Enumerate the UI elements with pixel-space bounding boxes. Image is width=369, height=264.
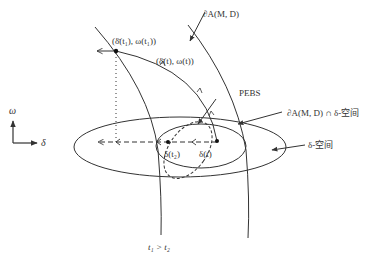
label-delta-t2: δ(t₂) <box>164 149 180 159</box>
label-point-t: (δ̄(t), ω(t)) <box>156 56 194 66</box>
label-intersection: ∂A(M, D) ∩ δ-空间 <box>287 107 359 118</box>
point-delta-t2-marker <box>166 140 170 144</box>
dashed-direction-mark <box>192 139 196 145</box>
label-time-relation: t₁ > t₂ <box>148 242 170 252</box>
label-point-t1: (δ̄(t₁), ω(t₁)) <box>112 36 156 46</box>
omega-axis-label: ω <box>9 105 16 116</box>
label-delta-t: δ(t) <box>199 149 212 159</box>
stability-boundary-curve <box>188 25 249 238</box>
point-t1-marker <box>114 49 118 53</box>
intersection-ellipse <box>156 124 246 168</box>
diagram-canvas: ω δ (δ̄(t₁), ω(t₁)) (δ̄(t), ω(t)) ∂A(M, … <box>0 0 369 264</box>
intersection-pointer-arrow <box>238 112 282 124</box>
label-pebs: PEBS <box>239 88 261 98</box>
trajectory-direction-mark <box>197 88 202 93</box>
label-boundary: ∂A(M, D) <box>203 9 239 19</box>
axis-indicator: ω δ <box>9 105 46 148</box>
pebs-pointer-arrow <box>198 99 216 124</box>
point-delta-t-marker <box>215 139 219 143</box>
label-delta-space: δ-空间 <box>308 139 333 150</box>
left-stability-boundary-curve <box>95 27 161 235</box>
delta-axis-label: δ <box>41 137 46 148</box>
delta-space-pointer-arrow <box>272 145 305 150</box>
